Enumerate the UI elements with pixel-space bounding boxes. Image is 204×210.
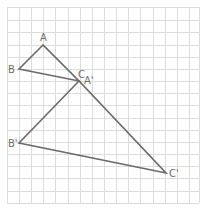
triangle-abc: [19, 45, 79, 81]
label-b: B: [8, 64, 15, 75]
label-a: A: [40, 32, 47, 43]
label-b-prime: B': [8, 138, 18, 149]
label-a-prime: A': [84, 75, 94, 86]
grid-diagram: A B C A' B' C': [0, 0, 204, 210]
label-c-prime: C': [169, 168, 179, 179]
